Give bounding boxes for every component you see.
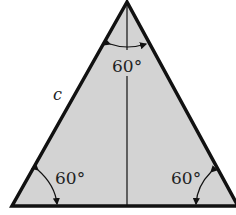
side-label-c: c (53, 85, 62, 104)
bottom-right-angle-label: 60° (171, 168, 201, 188)
top-angle-label: 60° (112, 56, 142, 76)
triangle-figure: 60° 60° 60° c (0, 0, 236, 215)
triangle-diagram: 60° 60° 60° c (0, 0, 236, 215)
bottom-left-angle-label: 60° (55, 168, 85, 188)
triangle-shape (12, 2, 236, 206)
